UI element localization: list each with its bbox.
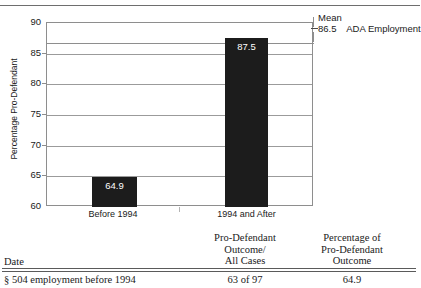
mean-header-label: Mean — [318, 12, 342, 23]
gridline-70 — [47, 146, 312, 147]
gridline-85 — [47, 54, 312, 55]
x-axis-label-before-1994: Before 1994 — [46, 209, 180, 219]
table-rule-upper — [2, 268, 416, 269]
bar-value-1994-and-after: 87.5 — [225, 41, 268, 52]
y-tick-label-85: 85 — [11, 47, 41, 58]
mean-reference-line — [47, 43, 314, 44]
top-divider-rule — [0, 5, 420, 6]
table-cell-percentage: 64.9 — [292, 274, 412, 285]
x-axis-label-1994-and-after: 1994 and After — [180, 209, 313, 219]
gridline-80 — [47, 84, 312, 85]
mean-value-tick — [311, 28, 318, 29]
bar-1994-and-after — [225, 38, 268, 207]
y-tick-label-65: 65 — [11, 169, 41, 180]
table-rule-lower — [2, 271, 416, 272]
gridline-75 — [47, 115, 312, 116]
y-tick-label-75: 75 — [11, 108, 41, 119]
data-table: Date Pro-Defendant Outcome/ All Cases Pe… — [0, 230, 420, 288]
plot-area: 64.9 87.5 — [46, 22, 313, 206]
bar-value-before-1994: 64.9 — [92, 180, 137, 191]
mean-series-label: ADA Employment — [346, 23, 420, 34]
gridline-65 — [47, 176, 312, 177]
y-tick-label-70: 70 — [11, 139, 41, 150]
table-header-date: Date — [4, 256, 24, 267]
cropped-header-text — [95, 0, 325, 4]
mean-value: 86.5 — [318, 23, 337, 34]
bar-chart: Percentage Pro-Defendant 90 85 80 75 70 … — [0, 8, 420, 230]
mean-header-tick — [313, 17, 314, 27]
y-tick-label-90: 90 — [11, 16, 41, 27]
mean-lower-tick — [313, 32, 314, 42]
y-tick-label-80: 80 — [11, 77, 41, 88]
y-tick-label-60: 60 — [11, 200, 41, 211]
table-header-percentage: Percentage of Pro-Defendant Outcome — [292, 232, 412, 267]
table-cell-date: § 504 employment before 1994 — [4, 274, 136, 285]
